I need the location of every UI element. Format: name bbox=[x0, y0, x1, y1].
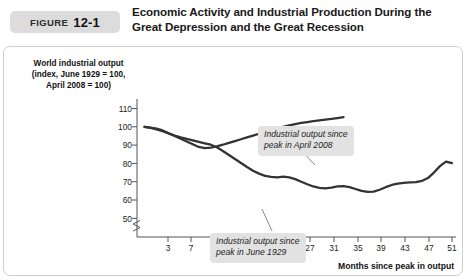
figure-badge-number: 12-1 bbox=[73, 15, 100, 30]
annotation-2008-line-1: Industrial output since bbox=[264, 129, 348, 140]
figure-number-badge: FIGURE 12-1 bbox=[10, 11, 120, 33]
annotation-callout-2008: Industrial output since peak in April 20… bbox=[258, 126, 354, 156]
annotation-1929-line-2: peak in June 1929 bbox=[216, 247, 300, 258]
figure-title: Economic Activity and Industrial Product… bbox=[132, 5, 462, 34]
annotation-callout-1929: Industrial output since peak in June 192… bbox=[210, 233, 306, 263]
annotation-2008-line-2: peak in April 2008 bbox=[264, 140, 348, 151]
figure-root: FIGURE 12-1 Economic Activity and Indust… bbox=[0, 0, 468, 280]
figure-header: FIGURE 12-1 Economic Activity and Indust… bbox=[0, 0, 468, 44]
figure-panel: World industrial output (index, June 192… bbox=[3, 46, 463, 276]
callout-1929-leader bbox=[262, 209, 272, 231]
y-axis-ticks bbox=[132, 109, 137, 219]
figure-badge-label: FIGURE bbox=[30, 17, 68, 28]
annotation-1929-line-1: Industrial output since bbox=[216, 236, 300, 247]
axis-break-icon bbox=[133, 221, 140, 232]
